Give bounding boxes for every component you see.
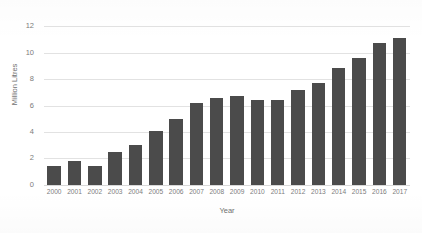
bar <box>108 152 121 185</box>
x-axis-tick-label: 2009 <box>227 189 247 196</box>
y-axis-tick-label: 4 <box>30 128 34 136</box>
bar-slot <box>390 26 410 185</box>
bar-slot <box>227 26 247 185</box>
bar <box>230 96 243 185</box>
x-axis-tick-label: 2005 <box>146 189 166 196</box>
bar <box>149 131 162 185</box>
x-axis-tick-label: 2000 <box>44 189 64 196</box>
bar <box>332 68 345 185</box>
bar-slot <box>288 26 308 185</box>
y-axis-tick-label: 0 <box>30 181 34 189</box>
bar <box>251 100 264 185</box>
x-axis-tick-label: 2007 <box>186 189 206 196</box>
x-axis-tick-label: 2003 <box>105 189 125 196</box>
x-axis-tick-label: 2006 <box>166 189 186 196</box>
bar <box>129 145 142 185</box>
bar <box>190 103 203 185</box>
bar-slot <box>64 26 84 185</box>
x-axis-tick-label: 2008 <box>207 189 227 196</box>
bar-slot <box>268 26 288 185</box>
y-axis-tick-labels: 12 10 8 6 4 2 0 <box>0 26 40 185</box>
plot-area <box>44 26 410 185</box>
y-axis-tick-label: 12 <box>26 22 34 30</box>
x-axis-tick-label: 2016 <box>369 189 389 196</box>
y-axis-tick-label: 6 <box>30 102 34 110</box>
bar <box>352 58 365 185</box>
bar <box>312 83 325 185</box>
bar-slot <box>186 26 206 185</box>
bar-slot <box>247 26 267 185</box>
bar-slot <box>308 26 328 185</box>
bar-slot <box>329 26 349 185</box>
x-axis-tick-label: 2004 <box>125 189 145 196</box>
bar-chart-figure: Million Litres 12 10 8 6 4 2 0 200020012… <box>0 0 422 233</box>
x-axis-tick-label: 2001 <box>64 189 84 196</box>
bar <box>393 38 406 185</box>
x-axis-tick-labels: 2000200120022003200420052006200720082009… <box>44 189 410 196</box>
bar <box>169 119 182 185</box>
bar-slot <box>44 26 64 185</box>
bar-slot <box>349 26 369 185</box>
bar <box>373 43 386 185</box>
x-axis-tick-label: 2014 <box>329 189 349 196</box>
y-axis-tick-label: 2 <box>30 155 34 163</box>
bar <box>291 90 304 185</box>
bar <box>210 98 223 185</box>
y-axis-tick-label: 8 <box>30 75 34 83</box>
bar-slot <box>369 26 389 185</box>
y-axis-tick-label: 10 <box>26 49 34 57</box>
bar <box>47 166 60 185</box>
x-axis-tick-label: 2017 <box>390 189 410 196</box>
x-axis-tick-label: 2010 <box>247 189 267 196</box>
bar-series <box>44 26 410 185</box>
bar-slot <box>166 26 186 185</box>
bar-slot <box>125 26 145 185</box>
bar-slot <box>207 26 227 185</box>
x-axis-tick-label: 2011 <box>268 189 288 196</box>
bar <box>271 100 284 185</box>
axis-baseline <box>44 185 410 186</box>
x-axis-tick-label: 2012 <box>288 189 308 196</box>
x-axis-tick-label: 2002 <box>85 189 105 196</box>
bar-slot <box>85 26 105 185</box>
bar-slot <box>146 26 166 185</box>
bar <box>68 161 81 185</box>
x-axis-tick-label: 2013 <box>308 189 328 196</box>
bar <box>88 166 101 185</box>
x-axis-tick-label: 2015 <box>349 189 369 196</box>
x-axis-title: Year <box>44 206 410 215</box>
bar-slot <box>105 26 125 185</box>
